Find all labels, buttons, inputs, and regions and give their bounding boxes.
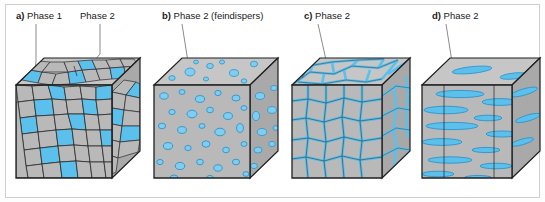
panel-c: c) Phase 2 bbox=[288, 0, 416, 202]
panel-c-cube bbox=[288, 0, 416, 202]
panel-c-front-face bbox=[292, 85, 382, 178]
panel-a-front-face bbox=[16, 85, 112, 178]
panel-b-front-face bbox=[154, 85, 250, 181]
panel-a-cube bbox=[8, 0, 148, 202]
panel-b: b) Phase 2 (feindispers) bbox=[148, 0, 288, 202]
panel-d: d) Phase 2 bbox=[416, 0, 544, 202]
panel-d-front-face bbox=[422, 85, 518, 181]
figure-canvas: a) Phase 1 Phase 2 bbox=[0, 0, 545, 202]
panel-a: a) Phase 1 Phase 2 bbox=[8, 0, 148, 202]
panel-b-cube bbox=[148, 0, 288, 202]
panel-d-cube bbox=[416, 0, 544, 202]
